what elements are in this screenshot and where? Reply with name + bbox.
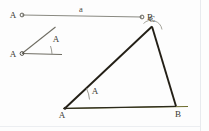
given-angle-vertex-label: A (10, 49, 17, 59)
triangle-vertex-A-label: A (59, 110, 66, 120)
given-segment-length-label: a (79, 4, 83, 14)
given-segment-start-label: A (10, 10, 17, 20)
triangle-vertex-B-label: B (175, 109, 181, 119)
construction-drawing: A B a A A (0, 0, 209, 131)
triangle-vertex-C-label: C (149, 14, 155, 24)
triangle-angle-label-A: A (92, 86, 99, 96)
geometry-figure-canvas: A B a A A (0, 0, 209, 131)
given-angle-label: A (53, 34, 60, 44)
